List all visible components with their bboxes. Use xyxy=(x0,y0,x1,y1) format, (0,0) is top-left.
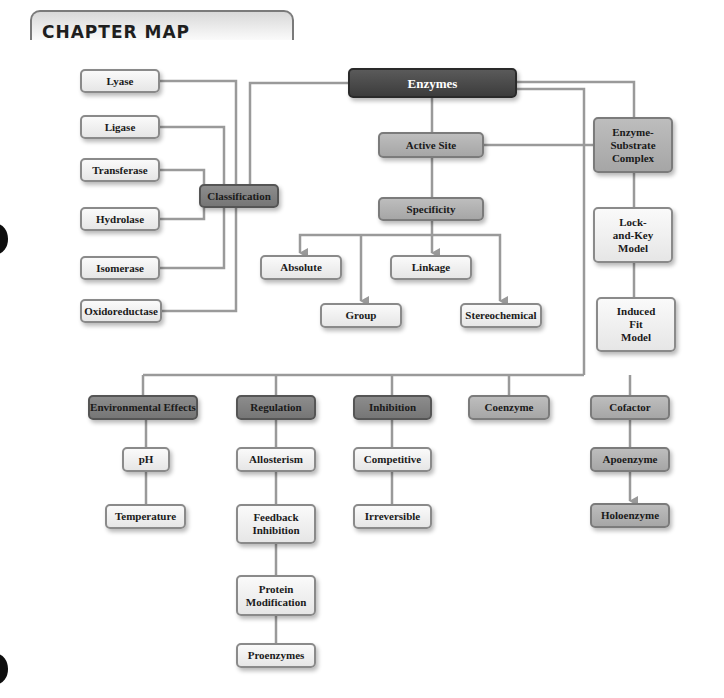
node-coenzyme: Coenzyme xyxy=(468,395,550,420)
node-oxidoreductase: Oxidoreductase xyxy=(80,299,162,323)
node-transferase: Transferase xyxy=(80,158,160,182)
node-enzyme-substrate-complex: Enzyme-Substrate Complex xyxy=(593,117,673,173)
node-environmental-effects: Environmental Effects xyxy=(88,395,198,420)
node-proenzymes: Proenzymes xyxy=(236,643,316,668)
node-absolute: Absolute xyxy=(260,255,342,280)
node-enzymes: Enzymes xyxy=(348,68,517,98)
node-inhibition: Inhibition xyxy=(353,395,432,420)
node-linkage: Linkage xyxy=(390,255,472,280)
node-lyase: Lyase xyxy=(80,69,160,93)
node-feedback-inhibition: Feedback Inhibition xyxy=(236,504,316,544)
node-protein-modification: Protein Modification xyxy=(236,575,316,616)
node-apoenzyme: Apoenzyme xyxy=(590,447,670,472)
node-lock-and-key-model: Lock-and-Key Model xyxy=(593,207,673,263)
node-temperature: Temperature xyxy=(105,504,186,529)
node-ph: pH xyxy=(122,447,170,472)
node-active-site: Active Site xyxy=(378,132,484,158)
node-holoenzyme: Holoenzyme xyxy=(590,503,670,528)
node-irreversible: Irreversible xyxy=(353,504,432,529)
node-induced-fit-model: Induced Fit Model xyxy=(596,297,676,352)
node-cofactor: Cofactor xyxy=(590,395,670,420)
node-ligase: Ligase xyxy=(80,115,160,139)
node-group: Group xyxy=(320,303,402,328)
node-classification: Classification xyxy=(199,184,279,208)
node-competitive: Competitive xyxy=(353,447,432,472)
node-isomerase: Isomerase xyxy=(80,256,160,280)
node-regulation: Regulation xyxy=(236,395,316,420)
node-hydrolase: Hydrolase xyxy=(80,207,160,231)
node-allosterism: Allosterism xyxy=(236,447,316,472)
node-stereochemical: Stereochemical xyxy=(460,303,542,328)
node-specificity: Specificity xyxy=(378,197,484,221)
